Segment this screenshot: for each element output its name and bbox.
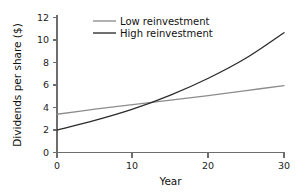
chart-figure: 0 2 4 6 8 10 12 0 10 20 30 Year Dividend…	[0, 0, 308, 193]
line-chart-canvas: 0 2 4 6 8 10 12 0 10 20 30 Year Dividend…	[0, 0, 308, 193]
y-tick-label-8: 8	[43, 57, 49, 68]
y-tick-label-10: 10	[37, 34, 49, 45]
x-tick-label-0: 0	[54, 160, 60, 171]
y-tick-label-2: 2	[43, 124, 49, 135]
x-tick-label-10: 10	[126, 160, 138, 171]
legend-label-low-reinvestment: Low reinvestment	[120, 16, 209, 27]
y-axis-title: Dividends per share ($)	[11, 23, 23, 146]
y-tick-label-12: 12	[37, 12, 49, 23]
y-tick-label-4: 4	[43, 102, 49, 113]
y-tick-label-0: 0	[43, 147, 49, 158]
y-tick-label-6: 6	[43, 79, 49, 90]
x-tick-label-30: 30	[278, 160, 290, 171]
x-tick-label-20: 20	[202, 160, 214, 171]
x-axis-title: Year	[158, 175, 182, 187]
legend-label-high-reinvestment: High reinvestment	[120, 28, 213, 39]
